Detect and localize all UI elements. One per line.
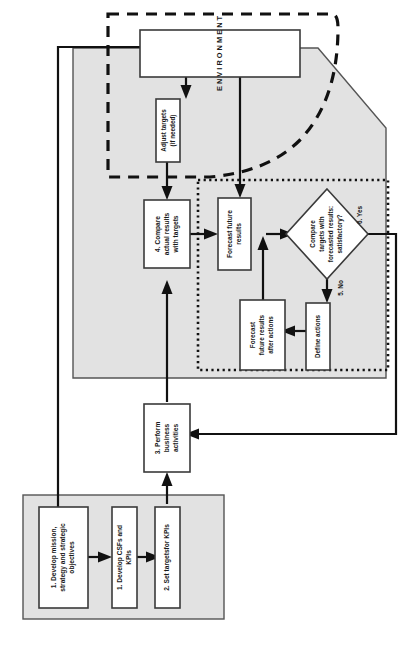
- svg-text:6. Yes: 6. Yes: [356, 206, 363, 224]
- node-compare-actual-line1: 4. Compare: [154, 216, 162, 252]
- flowchart-canvas: E N V I R O N M E N T Adjust targets (if…: [0, 0, 412, 655]
- node-perform-line1: 3. Perform: [154, 422, 161, 455]
- node-develop-mission-line2: strategy and strategic: [59, 523, 67, 592]
- node-develop-mission-line3: objectives: [68, 541, 76, 574]
- node-perform-line2: business: [163, 423, 170, 452]
- node-compare-actual-results[interactable]: 4. Compare actual results with targets: [144, 200, 190, 268]
- node-develop-mission-line1: 1. Develop mission,: [50, 527, 58, 589]
- node-develop-mission[interactable]: 1. Develop mission, strategy and strateg…: [39, 507, 88, 608]
- node-define-actions-label: Define actions: [314, 314, 321, 358]
- node-decision-line2: targets with: [318, 216, 326, 251]
- node-set-targets-label: 2. Set targetsfor KPIs: [163, 524, 171, 591]
- node-forecast-after-actions[interactable]: Forecast future results after actions: [240, 300, 285, 370]
- node-forecast-future-line2: results: [235, 223, 242, 245]
- svg-text:5. No: 5. No: [337, 280, 344, 296]
- node-forecast-future-line1: Forecast future: [226, 210, 233, 258]
- node-decision-line3: forecasted results:: [327, 206, 334, 262]
- node-adjust-targets-line1: Adjust targets: [160, 109, 168, 152]
- node-forecast-future-results[interactable]: Forecast future results: [218, 198, 251, 270]
- node-set-targets[interactable]: 2. Set targetsfor KPIs: [155, 507, 180, 608]
- node-adjust-targets[interactable]: Adjust targets (if needed): [156, 99, 180, 162]
- node-compare-actual-line2: actual results: [163, 212, 170, 255]
- node-decision-line4: satisfactory?: [336, 214, 344, 253]
- node-perform-business-activities[interactable]: 3. Perform business activities: [144, 404, 190, 472]
- node-forecast-after-line3: after actions: [267, 316, 274, 354]
- node-develop-csfs-line1: 1. Develop CSFs and: [116, 525, 124, 590]
- node-adjust-targets-line2: (if needed): [169, 115, 177, 147]
- node-decision-line1: Compare: [309, 220, 317, 248]
- node-develop-csfs-line2: KPIs: [125, 550, 132, 565]
- arrowhead-settargets-to-perform: [162, 472, 173, 486]
- node-perform-line3: activities: [172, 424, 179, 453]
- node-define-actions[interactable]: Define actions: [306, 303, 330, 370]
- node-environment-label: E N V I R O N M E N T: [215, 15, 224, 91]
- edge-label-no: 5. No: [337, 280, 344, 296]
- node-forecast-after-line1: Forecast: [249, 321, 256, 348]
- node-forecast-after-line2: future results: [258, 314, 265, 355]
- node-develop-csfs[interactable]: 1. Develop CSFs and KPIs: [112, 507, 137, 608]
- node-compare-actual-line3: with targets: [172, 215, 180, 253]
- edge-label-yes: 6. Yes: [356, 206, 363, 224]
